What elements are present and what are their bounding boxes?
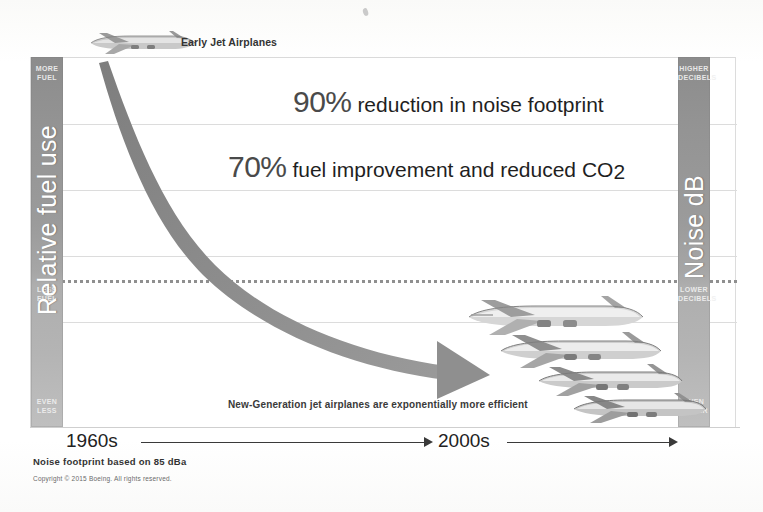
axis-right-tag-lower-decibels: LOWER DECIBELS [678, 285, 710, 303]
dotted-threshold-line [31, 280, 737, 283]
slide-canvas: MORE FUEL LESS FUEL EVEN LESS Relative f… [0, 0, 763, 512]
timeline-arrow-2-icon [669, 437, 678, 447]
gridline-2 [31, 190, 737, 191]
timeline-label-end: 2000s [438, 430, 490, 452]
airplane-new-generation-4 [567, 392, 707, 424]
gridline-3 [31, 256, 737, 257]
statement-noise-reduction: 90% reduction in noise footprint [293, 85, 604, 119]
statement-fuel-text: fuel improvement and reduced CO [287, 158, 614, 181]
axis-right-title: Noise dB [680, 175, 709, 279]
statement-fuel-percent: 70% [228, 150, 287, 183]
axis-left-tag-more-fuel: MORE FUEL [31, 64, 63, 82]
early-jet-label: Early Jet Airplanes [181, 36, 277, 48]
statement-noise-text: reduction in noise footprint [352, 93, 604, 116]
timeline-arrow-1-icon [424, 437, 433, 447]
plot-baseline [30, 427, 740, 428]
statement-fuel-improvement: 70% fuel improvement and reduced CO2 [228, 150, 625, 184]
axis-left-title: Relative fuel use [33, 125, 62, 315]
statement-noise-percent: 90% [293, 85, 352, 118]
timeline-segment-1 [141, 442, 427, 443]
footnote-text: Noise footprint based on 85 dBa [33, 456, 186, 467]
scan-artifact-speck [362, 7, 369, 16]
gridline-1 [31, 124, 737, 125]
copyright-text: Copyright © 2015 Boeing. All rights rese… [33, 475, 172, 482]
axis-right-tag-higher-decibels: HIGHER DECIBELS [678, 64, 710, 82]
statement-fuel-co2-subscript: 2 [613, 160, 625, 183]
timeline-label-start: 1960s [66, 430, 118, 452]
new-generation-caption: New-Generation jet airplanes are exponen… [228, 399, 528, 410]
timeline-segment-2 [507, 442, 672, 443]
axis-left-tag-even-less: EVEN LESS [31, 397, 63, 415]
axis-bar-relative-fuel-use: MORE FUEL LESS FUEL EVEN LESS Relative f… [31, 57, 63, 427]
